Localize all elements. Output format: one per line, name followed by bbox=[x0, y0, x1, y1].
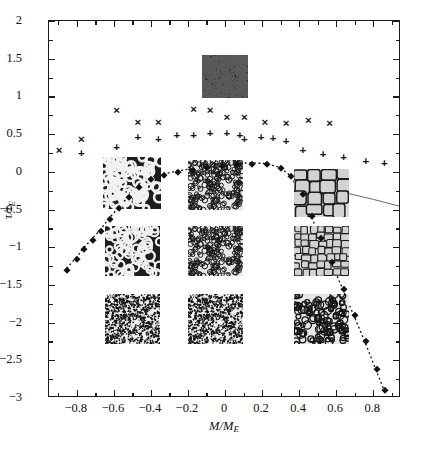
x-tick-minor bbox=[132, 21, 133, 25]
data-point-plus: + bbox=[270, 134, 277, 146]
data-point-plus: + bbox=[283, 136, 290, 148]
y-tick-minor bbox=[49, 379, 53, 380]
inset-left-upper bbox=[103, 157, 161, 209]
y-tick-minor bbox=[396, 153, 400, 154]
x-tick-minor bbox=[355, 21, 356, 25]
data-point-plus: + bbox=[340, 152, 347, 164]
y-tick-minor bbox=[396, 115, 400, 116]
x-tick-minor bbox=[281, 21, 282, 25]
x-tick-major bbox=[77, 390, 78, 396]
y-tick-major bbox=[393, 96, 399, 97]
y-tick-major bbox=[393, 172, 399, 173]
data-point-cross: × bbox=[207, 106, 214, 118]
x-tick-label: −0.4 bbox=[139, 402, 162, 415]
x-tick-label: 0.2 bbox=[253, 402, 269, 415]
y-tick-major bbox=[49, 134, 55, 135]
y-tick-major bbox=[393, 59, 399, 60]
data-point-cross: × bbox=[78, 134, 85, 146]
inset-left-middle bbox=[105, 226, 160, 276]
x-tick-major bbox=[373, 390, 374, 396]
y-tick-major bbox=[49, 210, 55, 211]
inset-center-upper bbox=[188, 160, 243, 210]
x-tick-minor bbox=[169, 21, 170, 25]
y-tick-major bbox=[393, 285, 399, 286]
data-point-cross: × bbox=[135, 117, 142, 129]
y-tick-major bbox=[49, 59, 55, 60]
x-tick-minor bbox=[355, 393, 356, 397]
x-tick-major bbox=[188, 390, 189, 396]
x-tick-minor bbox=[58, 21, 59, 25]
data-point-cross: × bbox=[190, 104, 197, 116]
y-tick-major bbox=[393, 323, 399, 324]
x-tick-label: −0.8 bbox=[64, 402, 87, 415]
data-point-plus: + bbox=[78, 149, 85, 161]
data-point-plus: + bbox=[113, 142, 120, 154]
data-point-cross: × bbox=[326, 119, 333, 131]
data-point-plus: + bbox=[155, 134, 162, 146]
y-tick-major bbox=[393, 134, 399, 135]
x-tick-major bbox=[225, 21, 226, 27]
data-point-plus: + bbox=[135, 132, 142, 144]
data-point-plus: + bbox=[190, 131, 197, 143]
data-point-cross: × bbox=[261, 117, 268, 129]
y-tick-major bbox=[49, 21, 55, 22]
y-tick-label: −0.5 bbox=[0, 202, 22, 215]
x-tick-label: −0.2 bbox=[176, 402, 199, 415]
x-tick-minor bbox=[95, 393, 96, 397]
y-tick-label: −2.5 bbox=[0, 353, 22, 366]
x-tick-minor bbox=[95, 21, 96, 25]
y-tick-minor bbox=[396, 304, 400, 305]
data-point-cross: × bbox=[241, 112, 248, 124]
data-point-plus: + bbox=[381, 159, 388, 171]
y-tick-label: 1 bbox=[16, 89, 22, 102]
y-tick-minor bbox=[49, 115, 53, 116]
x-tick-major bbox=[225, 390, 226, 396]
x-tick-label: 0 bbox=[221, 402, 227, 415]
inset-right-middle bbox=[294, 226, 349, 276]
plot-area: ×××××××××××××++++++++++++++++++ bbox=[48, 20, 400, 397]
x-tick-minor bbox=[318, 393, 319, 397]
y-tick-label: 1.5 bbox=[6, 51, 22, 64]
data-point-cross: × bbox=[223, 112, 230, 124]
x-tick-label: −0.6 bbox=[101, 402, 124, 415]
data-point-plus: + bbox=[320, 149, 327, 161]
y-tick-major bbox=[393, 210, 399, 211]
data-point-plus: + bbox=[362, 156, 369, 168]
y-tick-minor bbox=[49, 228, 53, 229]
y-tick-major bbox=[49, 172, 55, 173]
y-tick-label: −1.5 bbox=[0, 278, 22, 291]
y-tick-minor bbox=[396, 266, 400, 267]
data-point-plus: + bbox=[299, 145, 306, 157]
x-tick-major bbox=[151, 390, 152, 396]
x-axis-title: M/ME bbox=[209, 419, 239, 434]
x-tick-minor bbox=[169, 393, 170, 397]
data-point-plus: + bbox=[207, 128, 214, 140]
y-tick-minor bbox=[49, 191, 53, 192]
x-tick-major bbox=[336, 390, 337, 396]
y-tick-minor bbox=[396, 78, 400, 79]
y-tick-minor bbox=[49, 341, 53, 342]
y-tick-minor bbox=[49, 78, 53, 79]
x-tick-major bbox=[114, 390, 115, 396]
y-tick-minor bbox=[396, 191, 400, 192]
x-tick-minor bbox=[206, 393, 207, 397]
y-tick-minor bbox=[49, 304, 53, 305]
y-tick-major bbox=[393, 360, 399, 361]
inset-center-lower bbox=[188, 294, 243, 344]
data-point-plus: + bbox=[223, 128, 230, 140]
y-tick-label: 0.5 bbox=[6, 127, 22, 140]
data-point-cross: × bbox=[305, 116, 312, 128]
data-point-cross: × bbox=[56, 146, 63, 158]
y-tick-minor bbox=[396, 379, 400, 380]
x-tick-minor bbox=[132, 393, 133, 397]
data-point-plus: + bbox=[173, 131, 180, 143]
x-tick-major bbox=[151, 21, 152, 27]
x-tick-major bbox=[299, 21, 300, 27]
y-tick-minor bbox=[396, 40, 400, 41]
x-tick-major bbox=[262, 21, 263, 27]
y-tick-major bbox=[49, 96, 55, 97]
inset-dark-top-center bbox=[202, 55, 248, 98]
x-tick-minor bbox=[281, 393, 282, 397]
x-tick-major bbox=[336, 21, 337, 27]
y-tick-minor bbox=[49, 153, 53, 154]
